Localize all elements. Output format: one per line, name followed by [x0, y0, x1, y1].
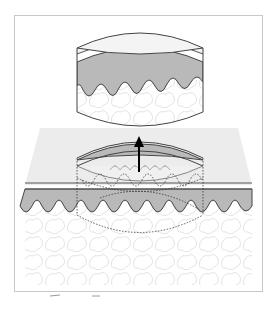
artifact-left: [50, 295, 60, 296]
plug-dermis: [77, 48, 203, 96]
biopsy-diagram: [0, 0, 277, 317]
